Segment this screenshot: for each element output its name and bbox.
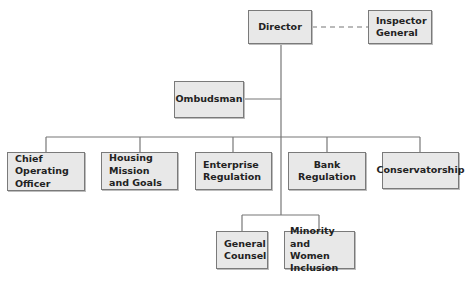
- director-box: Director: [248, 10, 312, 44]
- ombudsman-box: Ombudsman: [174, 81, 244, 118]
- enterprise-label: Enterprise Regulation: [203, 159, 261, 184]
- inspector-general-label: Inspector General: [376, 15, 427, 40]
- housing-label: Housing Mission and Goals: [109, 152, 170, 189]
- housing-box: Housing Mission and Goals: [101, 152, 178, 190]
- coo-box: Chief Operating Officer: [7, 152, 85, 191]
- minority-inclusion-box: Minority and Women Inclusion: [284, 231, 355, 269]
- ombudsman-label: Ombudsman: [175, 93, 242, 105]
- conservatorship-label: Conservatorship: [377, 164, 465, 176]
- minority-inclusion-label: Minority and Women Inclusion: [290, 225, 349, 274]
- conservatorship-box: Conservatorship: [382, 152, 459, 189]
- inspector-general-box: Inspector General: [368, 10, 432, 44]
- general-counsel-label: General Counsel: [224, 238, 266, 263]
- director-label: Director: [258, 21, 302, 33]
- coo-label: Chief Operating Officer: [15, 153, 77, 190]
- bank-regulation-label: Bank Regulation: [293, 159, 361, 184]
- bank-regulation-box: Bank Regulation: [288, 152, 366, 190]
- general-counsel-box: General Counsel: [216, 231, 268, 269]
- enterprise-box: Enterprise Regulation: [195, 152, 272, 190]
